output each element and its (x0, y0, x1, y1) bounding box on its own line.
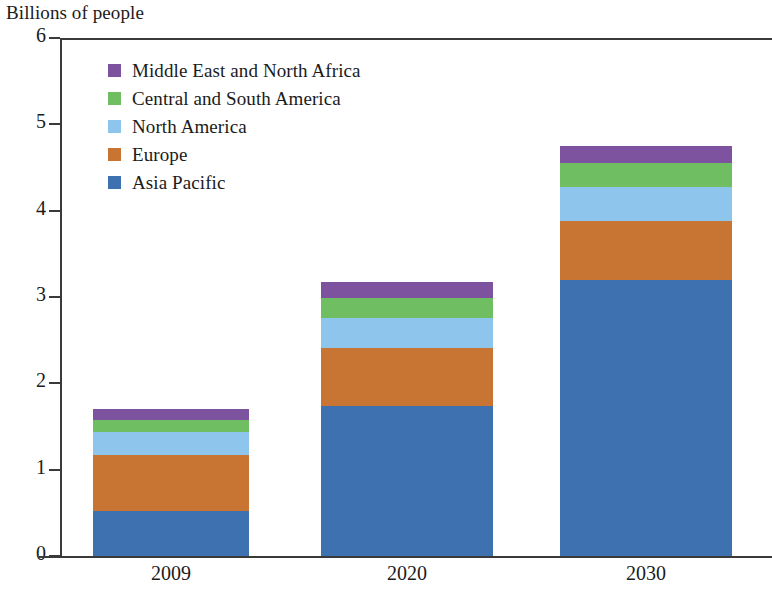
legend-item-label: Asia Pacific (132, 170, 378, 196)
bar-segment[interactable] (560, 187, 732, 222)
legend-swatch-icon (108, 176, 121, 189)
plot-frame-baseline (38, 556, 772, 558)
y-axis-tick-label: 1 (0, 456, 46, 479)
legend-item-label: Europe (132, 142, 378, 168)
legend-item[interactable]: North America (108, 114, 378, 140)
legend-item[interactable]: Central and South America (108, 86, 378, 112)
bar-segment[interactable] (560, 146, 732, 163)
bar-segment[interactable] (93, 420, 249, 432)
legend-swatch-icon (108, 64, 121, 77)
legend-item-label: Middle East and North Africa (132, 58, 378, 84)
y-axis-tick-label: 4 (0, 197, 46, 220)
y-axis-tick (49, 123, 60, 125)
x-axis-tick-label-2030: 2030 (560, 562, 732, 585)
legend-item[interactable]: Middle East and North Africa (108, 58, 378, 84)
y-axis-tick (49, 210, 60, 212)
x-axis-tick-label-2020: 2020 (321, 562, 493, 585)
legend-swatch-icon (108, 120, 121, 133)
x-axis-tick-labels: 200920202030 (0, 562, 772, 597)
bar-segment[interactable] (560, 280, 732, 556)
legend-item-label: Central and South America (132, 86, 378, 112)
y-axis-tick-label: 3 (0, 283, 46, 306)
bar-segment[interactable] (321, 348, 493, 406)
bar-segment[interactable] (321, 298, 493, 318)
bar-2009[interactable] (93, 399, 249, 556)
y-axis-tick-labels: 0123456 (0, 38, 46, 556)
y-axis-tick (49, 382, 60, 384)
y-axis-title: Billions of people (6, 2, 144, 24)
y-axis-tick (49, 469, 60, 471)
y-axis-tick-label: 6 (0, 24, 46, 47)
bar-segment[interactable] (321, 406, 493, 556)
bar-2030[interactable] (560, 146, 732, 556)
x-axis-tick-label-2009: 2009 (93, 562, 249, 585)
bar-segment[interactable] (93, 432, 249, 455)
legend-item-label: North America (132, 114, 378, 140)
legend-item[interactable]: Europe (108, 142, 378, 168)
y-axis-tick-label: 5 (0, 110, 46, 133)
bar-segment[interactable] (93, 455, 249, 511)
bar-segment[interactable] (93, 511, 249, 556)
legend-item[interactable]: Asia Pacific (108, 170, 378, 196)
bar-2020[interactable] (321, 282, 493, 556)
chart-legend: Middle East and North AfricaCentral and … (108, 58, 378, 198)
stacked-bar-chart: Billions of people 0123456 200920202030 … (0, 0, 772, 597)
y-axis-tick (49, 555, 60, 557)
bar-segment[interactable] (321, 318, 493, 348)
y-axis-tick-label: 2 (0, 369, 46, 392)
bar-segment[interactable] (93, 409, 249, 419)
legend-swatch-icon (108, 148, 121, 161)
bar-segment[interactable] (560, 221, 732, 280)
bar-segment[interactable] (321, 282, 493, 298)
legend-swatch-icon (108, 92, 121, 105)
y-axis-tick (49, 37, 60, 39)
bar-segment[interactable] (560, 163, 732, 186)
y-axis-tick (49, 296, 60, 298)
